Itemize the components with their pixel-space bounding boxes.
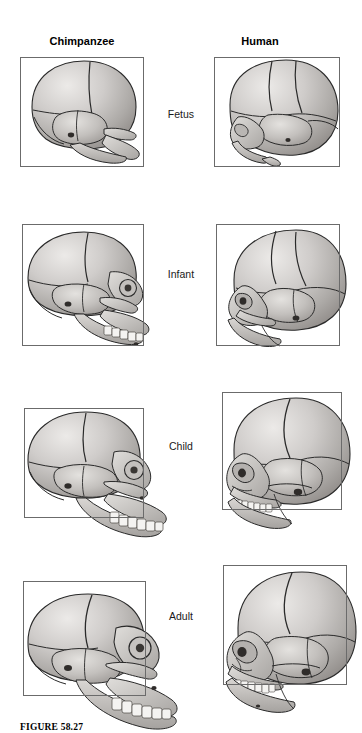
scale-box-chimpanzee-fetus bbox=[20, 57, 144, 167]
column-header-human: Human bbox=[200, 35, 320, 47]
scale-box-chimpanzee-adult bbox=[23, 581, 146, 696]
scale-box-human-fetus bbox=[214, 57, 340, 167]
scale-box-human-child bbox=[222, 392, 342, 510]
scale-box-chimpanzee-infant bbox=[22, 224, 144, 346]
scale-box-human-adult bbox=[223, 565, 347, 685]
figure-comparative-skull-growth: Chimpanzee Human Fetus Infant Child Adul… bbox=[0, 0, 362, 733]
scale-box-human-infant bbox=[216, 224, 340, 346]
row-label-fetus: Fetus bbox=[146, 108, 216, 120]
column-header-chimpanzee: Chimpanzee bbox=[22, 35, 142, 47]
scale-box-chimpanzee-child bbox=[24, 408, 144, 518]
